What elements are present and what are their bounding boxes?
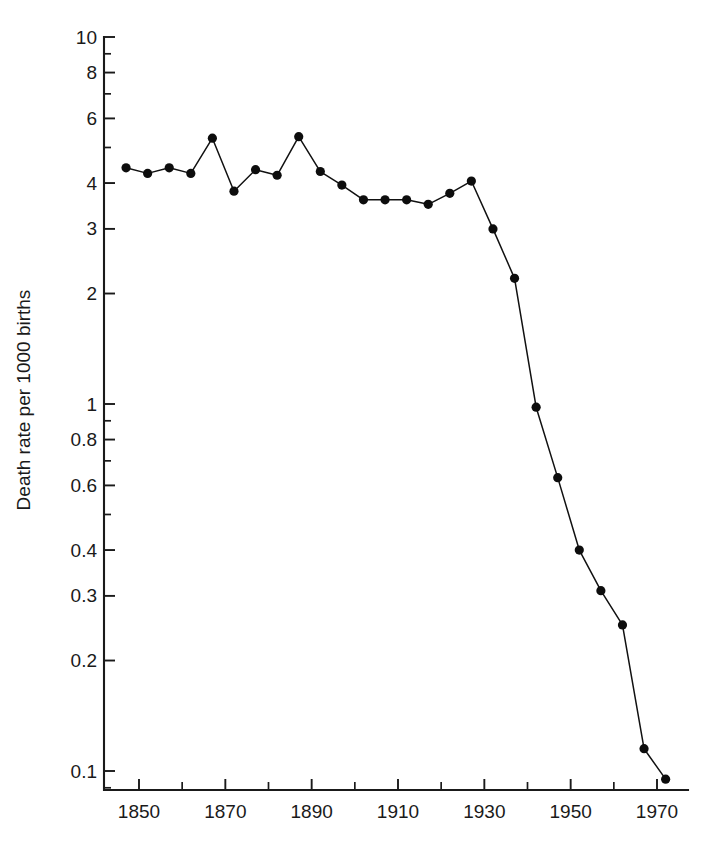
data-point — [596, 586, 605, 595]
y-tick-label: 0.6 — [71, 475, 97, 496]
data-point — [359, 195, 368, 204]
y-tick-label: 0.1 — [71, 761, 97, 782]
y-axis-ticks — [104, 37, 115, 788]
x-tick-label: 1850 — [118, 801, 160, 822]
data-point — [208, 134, 217, 143]
data-point — [488, 224, 497, 233]
data-point — [186, 169, 195, 178]
data-point — [510, 274, 519, 283]
data-point — [273, 171, 282, 180]
y-tick-label: 2 — [86, 283, 97, 304]
x-tick-label: 1970 — [636, 801, 678, 822]
y-axis-title: Death rate per 1000 births — [13, 290, 34, 511]
series-line — [126, 137, 666, 779]
y-tick-label: 6 — [86, 108, 97, 129]
y-tick-label: 8 — [86, 62, 97, 83]
y-tick-label: 1 — [86, 394, 97, 415]
data-point — [661, 775, 670, 784]
data-point — [532, 403, 541, 412]
data-point — [402, 195, 411, 204]
data-point — [337, 180, 346, 189]
y-tick-label: 10 — [76, 27, 97, 48]
data-point — [445, 189, 454, 198]
y-tick-label: 4 — [86, 173, 97, 194]
x-tick-label: 1950 — [550, 801, 592, 822]
data-point — [424, 200, 433, 209]
y-tick-label: 0.2 — [71, 650, 97, 671]
chart-figure: 108643210.80.60.40.30.20.1 1850187018901… — [0, 0, 708, 846]
data-point — [251, 165, 260, 174]
x-tick-label: 1870 — [204, 801, 246, 822]
data-point — [553, 473, 562, 482]
data-point — [229, 187, 238, 196]
data-point — [639, 744, 648, 753]
data-point — [121, 163, 130, 172]
x-axis-ticks — [139, 779, 657, 790]
y-tick-label: 0.4 — [71, 540, 98, 561]
data-point — [294, 132, 303, 141]
axis-frame — [104, 37, 688, 790]
x-tick-label: 1890 — [291, 801, 333, 822]
x-axis-tick-labels: 1850187018901910193019501970 — [118, 801, 678, 822]
data-point — [316, 167, 325, 176]
x-tick-label: 1910 — [377, 801, 419, 822]
data-point — [143, 169, 152, 178]
x-tick-label: 1930 — [463, 801, 505, 822]
y-tick-label: 0.8 — [71, 429, 97, 450]
series-markers — [121, 132, 670, 784]
line-chart-svg: 108643210.80.60.40.30.20.1 1850187018901… — [0, 0, 708, 846]
y-axis-tick-labels: 108643210.80.60.40.30.20.1 — [71, 27, 98, 782]
data-point — [467, 176, 476, 185]
y-tick-label: 3 — [86, 218, 97, 239]
y-tick-label: 0.3 — [71, 585, 97, 606]
data-point — [380, 195, 389, 204]
data-point — [165, 163, 174, 172]
data-point — [618, 620, 627, 629]
data-point — [575, 545, 584, 554]
